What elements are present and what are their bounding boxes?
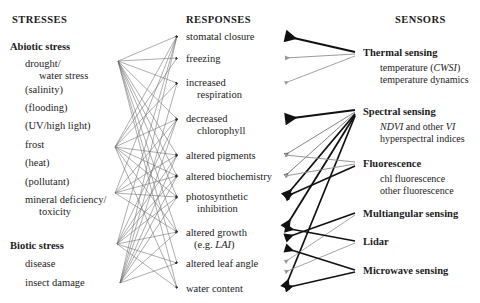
altered-growth-eg: (e.g. bbox=[194, 239, 215, 250]
sensor-thermal-sub-2: temperature dynamics bbox=[380, 74, 469, 86]
spectral-sub1-ndvi: NDVI bbox=[380, 121, 403, 132]
thermal-sub1-pre: temperature ( bbox=[380, 62, 434, 73]
response-item-increased-respiration-l2: respiration bbox=[197, 89, 242, 101]
response-item-increased-respiration-l1: increased bbox=[186, 77, 226, 88]
stress-item-mineral: mineral deficiency/ toxicity bbox=[25, 194, 106, 217]
response-item-altered-growth: altered growth (e.g. LAI) bbox=[186, 227, 247, 250]
response-item-decreased-chlorophyll-l2: chlorophyll bbox=[197, 125, 245, 137]
response-item-altered-growth-l1: altered growth bbox=[186, 227, 247, 238]
stress-item-insect-damage: insect damage bbox=[25, 277, 85, 289]
spectral-sub1-vi: VI bbox=[446, 121, 455, 132]
stresses-heading: STRESSES bbox=[12, 14, 67, 25]
spectral-sensor-lines bbox=[285, 110, 355, 288]
sensor-fluorescence-sub-1: chl fluorescence bbox=[380, 173, 445, 185]
response-item-decreased-chlorophyll: decreased chlorophyll bbox=[186, 113, 245, 136]
sensor-spectral-sub-2: hyperspectral indices bbox=[380, 133, 465, 145]
stress-item-mineral-l1: mineral deficiency/ bbox=[25, 194, 106, 205]
fluorescence-sensor-lines bbox=[285, 155, 355, 197]
response-item-altered-leaf-angle: altered leaf angle bbox=[186, 258, 258, 270]
stress-to-response-lines bbox=[115, 36, 177, 288]
biotic-stress-group-title: Biotic stress bbox=[10, 240, 64, 251]
sensor-microwave-sensing[interactable]: Microwave sensing bbox=[363, 265, 448, 276]
abiotic-stress-group-title: Abiotic stress bbox=[10, 41, 70, 52]
sensor-multiangular-sensing[interactable]: Multiangular sensing bbox=[363, 208, 458, 219]
stress-item-pollutant: (pollutant) bbox=[25, 176, 69, 188]
altered-growth-paren: ) bbox=[231, 239, 235, 250]
response-item-water-content: water content bbox=[186, 283, 243, 295]
response-item-stomatal-closure: stomatal closure bbox=[186, 31, 255, 43]
sensor-spectral-sensing[interactable]: Spectral sensing bbox=[363, 106, 436, 117]
sensor-fluorescence[interactable]: Fluorescence bbox=[363, 158, 421, 169]
diagram-canvas: STRESSES Abiotic stress drought/ water s… bbox=[0, 0, 480, 303]
response-item-photosynthetic-inhibition: photosynthetic inhibition bbox=[186, 191, 248, 214]
stress-item-mineral-l2: toxicity bbox=[39, 206, 106, 218]
multiangular-sensor-lines bbox=[285, 213, 355, 262]
stress-item-drought-l2: water stress bbox=[39, 70, 88, 82]
altered-growth-lai: LAI bbox=[215, 239, 231, 250]
stress-item-flooding: (flooding) bbox=[25, 102, 68, 114]
stress-item-salinity: (salinity) bbox=[25, 84, 63, 96]
response-item-altered-growth-l2: (e.g. LAI) bbox=[194, 239, 247, 251]
sensors-heading: SENSORS bbox=[395, 14, 446, 25]
thermal-sub1-cwsi: CWSI bbox=[434, 62, 457, 73]
sensor-thermal-sensing[interactable]: Thermal sensing bbox=[363, 47, 437, 58]
stress-item-drought: drought/ water stress bbox=[25, 58, 88, 81]
response-item-increased-respiration: increased respiration bbox=[186, 77, 242, 100]
stress-item-uv-high-light: (UV/high light) bbox=[25, 120, 91, 132]
stress-item-frost: frost bbox=[25, 139, 44, 151]
sensor-fluorescence-sub-2: other fluorescence bbox=[380, 185, 454, 197]
sensor-lidar[interactable]: Lidar bbox=[363, 236, 389, 247]
thermal-sensor-lines bbox=[285, 36, 355, 83]
stress-item-drought-l1: drought/ bbox=[25, 58, 61, 69]
responses-heading: RESPONSES bbox=[186, 14, 251, 25]
response-item-photosynthetic-inhibition-l1: photosynthetic bbox=[186, 191, 248, 202]
spectral-sub1-mid: and other bbox=[403, 121, 446, 132]
sensor-thermal-sub-1: temperature (CWSI) bbox=[380, 62, 460, 74]
stress-item-heat: (heat) bbox=[25, 157, 49, 169]
response-item-altered-pigments: altered pigments bbox=[186, 150, 256, 162]
response-item-freezing: freezing bbox=[186, 53, 220, 65]
response-item-photosynthetic-inhibition-l2: inhibition bbox=[197, 203, 248, 215]
stress-item-disease: disease bbox=[25, 258, 55, 270]
sensor-spectral-sub-1: NDVI and other VI bbox=[380, 121, 455, 133]
thermal-sub1-post: ) bbox=[457, 62, 460, 73]
response-item-altered-biochemistry: altered biochemistry bbox=[186, 171, 272, 183]
response-item-decreased-chlorophyll-l1: decreased bbox=[186, 113, 227, 124]
